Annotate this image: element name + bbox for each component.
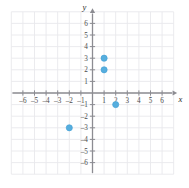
y-tick-label: –1 [80,101,89,109]
coordinate-plane-svg: –6–5–4–3–2–1123456 654321–1–2–3–4–5–6 xy… [0,0,189,188]
y-tick-label: 6 [84,20,88,28]
x-tick-label: 1 [102,97,106,105]
x-axis-name-label: x [177,94,182,104]
x-axis-arrowhead [173,90,178,95]
data-point: (2, -1) [113,102,119,108]
y-axis-name-label: y [81,2,86,12]
data-point: (1, 2) [101,67,107,73]
x-tick-label: –4 [42,97,51,105]
y-tick-label: 4 [84,43,88,51]
data-point: (-2, -3) [66,125,72,131]
y-tick-label: –2 [80,113,89,121]
x-tick-label: 3 [126,97,130,105]
y-tick-label: 2 [84,66,88,74]
y-tick-label: 3 [84,55,88,63]
y-tick-label: –3 [80,124,89,132]
x-tick-label: –2 [65,97,74,105]
x-axis-tick-labels: –6–5–4–3–2–1123456 [18,97,164,105]
x-tick-label: 5 [149,97,153,105]
y-tick-label: –4 [80,136,89,144]
y-tick-label: 5 [84,32,88,40]
y-tick-label: –5 [80,148,89,156]
y-axis-arrowhead [90,8,95,13]
axis-name-labels: xy [81,2,182,104]
coordinate-plane-figure: –6–5–4–3–2–1123456 654321–1–2–3–4–5–6 xy… [0,0,189,188]
x-tick-label: –6 [18,97,27,105]
axes [12,8,177,173]
x-tick-label: 6 [160,97,164,105]
x-tick-label: –5 [30,97,39,105]
data-point: (1, 3) [101,55,107,61]
y-tick-label: 1 [84,78,88,86]
y-tick-label: –6 [80,159,89,167]
x-tick-label: 4 [137,97,141,105]
x-tick-label: –3 [53,97,62,105]
